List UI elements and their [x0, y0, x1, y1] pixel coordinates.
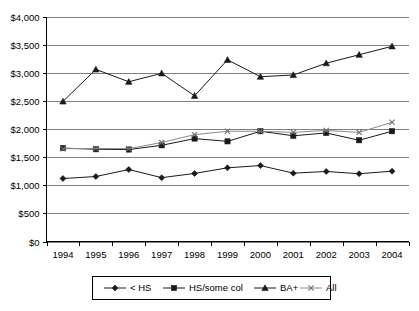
data-point-marker: [389, 129, 394, 134]
x-axis-tick-labels: 1994199519961997199819992000200120022003…: [52, 249, 402, 260]
x-axis-tick-label: 1998: [184, 249, 205, 260]
x-axis-tick-label: 2000: [250, 249, 271, 260]
data-point-marker: [159, 175, 165, 181]
y-axis-tick-label: $2,500: [10, 96, 39, 107]
legend-item-label: < HS: [130, 282, 151, 293]
data-series-group: [60, 43, 395, 181]
y-axis-tick-label: $3,000: [10, 68, 39, 79]
x-axis-tick-label: 2004: [381, 249, 402, 260]
x-axis-tick-label: 1999: [217, 249, 238, 260]
x-axis-tick-label: 1996: [118, 249, 139, 260]
data-point-marker: [224, 57, 230, 63]
legend-marker-square-icon: [171, 285, 176, 290]
y-axis-tick-labels: $0$500$1,000$1,500$2,000$2,500$3,000$3,5…: [10, 12, 46, 248]
data-point-marker: [290, 170, 296, 176]
gridlines-group: [47, 18, 409, 243]
y-axis-tick-label: $0: [29, 237, 40, 248]
x-axis-tick-label: 2001: [283, 249, 304, 260]
data-point-marker: [389, 120, 394, 125]
x-axis-tick-label: 1997: [151, 249, 172, 260]
series-path: [63, 122, 392, 148]
x-axis-tick-label: 1994: [52, 249, 73, 260]
y-axis-tick-label: $3,500: [10, 40, 39, 51]
series-all: [60, 120, 394, 152]
data-point-marker: [93, 147, 98, 152]
chart-canvas: $0$500$1,000$1,500$2,000$2,500$3,000$3,5…: [0, 0, 419, 311]
data-point-marker: [389, 168, 395, 174]
y-axis-tick-label: $1,000: [10, 180, 39, 191]
data-point-marker: [225, 139, 230, 144]
data-point-marker: [60, 176, 66, 182]
series-hs: [60, 163, 395, 182]
legend-item-label: All: [326, 282, 337, 293]
y-axis-tick-label: $2,000: [10, 124, 39, 135]
data-point-marker: [159, 143, 164, 148]
y-axis-tick-label: $1,500: [10, 152, 39, 163]
data-point-marker: [323, 168, 329, 174]
legend-item-label: BA+: [280, 282, 299, 293]
data-point-marker: [126, 147, 131, 152]
data-point-marker: [192, 170, 198, 176]
data-point-marker: [93, 66, 99, 72]
data-point-marker: [389, 43, 395, 49]
x-axis-tick-label: 1995: [85, 249, 106, 260]
data-point-marker: [356, 171, 362, 177]
legend-item-label: HS/some col: [189, 282, 243, 293]
data-point-marker: [357, 138, 362, 143]
data-point-marker: [225, 165, 231, 171]
y-axis-tick-label: $4,000: [10, 12, 39, 23]
data-point-marker: [93, 174, 99, 180]
data-point-marker: [126, 167, 132, 173]
line-chart: $0$500$1,000$1,500$2,000$2,500$3,000$3,5…: [0, 0, 419, 311]
x-axis-tick-label: 2002: [316, 249, 337, 260]
x-axis-tick-label: 2003: [349, 249, 370, 260]
data-point-marker: [257, 163, 263, 169]
y-axis-tick-label: $500: [18, 208, 39, 219]
chart-legend: < HSHS/some colBA+All: [93, 277, 337, 300]
